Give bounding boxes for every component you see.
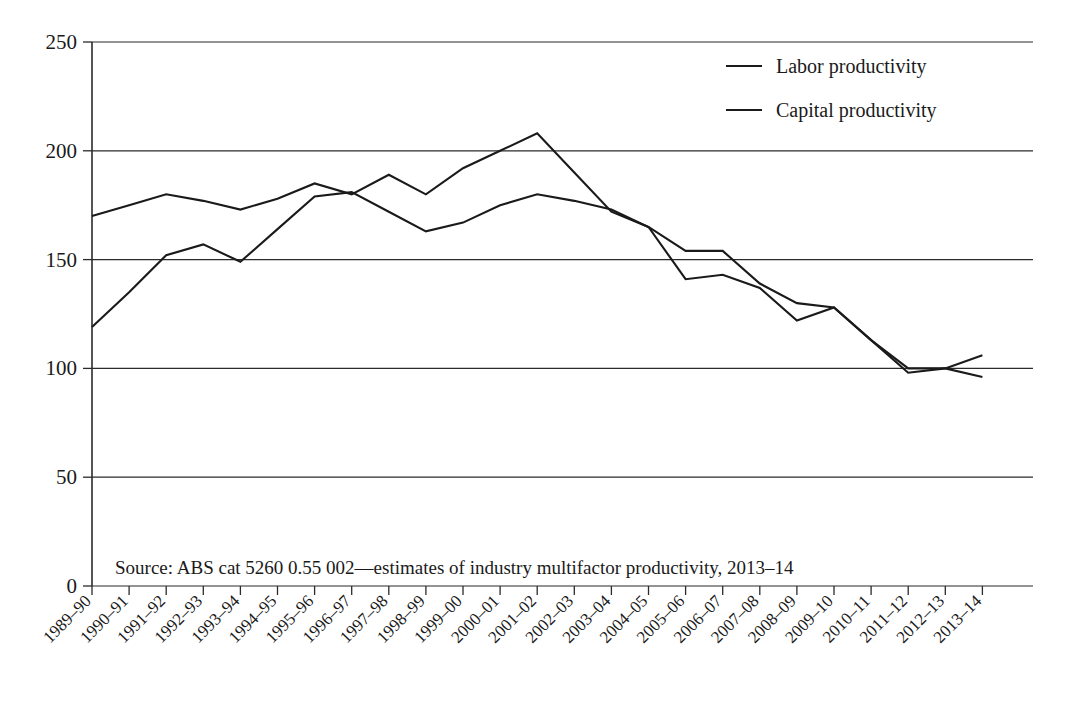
productivity-line-chart-figure: 050100150200250 1989–901990–911991–92199… xyxy=(0,0,1083,701)
legend-label-0: Labor productivity xyxy=(776,55,927,78)
legend-label-1: Capital productivity xyxy=(776,99,937,122)
y-tick-label: 50 xyxy=(56,465,77,489)
y-tick-label: 0 xyxy=(67,574,78,598)
y-tick-label: 200 xyxy=(46,139,78,163)
y-tick-label: 250 xyxy=(46,30,78,54)
y-tick-label: 100 xyxy=(46,356,78,380)
y-tick-label: 150 xyxy=(46,248,78,272)
source-note: Source: ABS cat 5260 0.55 002—estimates … xyxy=(115,557,794,578)
chart-canvas: 050100150200250 1989–901990–911991–92199… xyxy=(0,0,1083,701)
